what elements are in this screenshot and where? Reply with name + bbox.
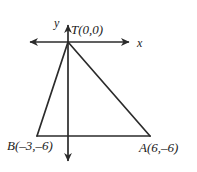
x-axis-label: x bbox=[137, 37, 142, 49]
side-TA bbox=[68, 42, 150, 136]
vertex-label-B: B(–3,–6) bbox=[7, 139, 53, 152]
side-TB bbox=[37, 42, 68, 136]
vertex-label-T: T(0,0) bbox=[71, 23, 103, 36]
y-axis-label: y bbox=[54, 17, 59, 29]
geometry-figure: y x T(0,0) B(–3,–6) A(6,–6) bbox=[0, 0, 197, 172]
vertex-label-A: A(6,–6) bbox=[139, 141, 178, 154]
triangle-TBA bbox=[37, 42, 150, 136]
